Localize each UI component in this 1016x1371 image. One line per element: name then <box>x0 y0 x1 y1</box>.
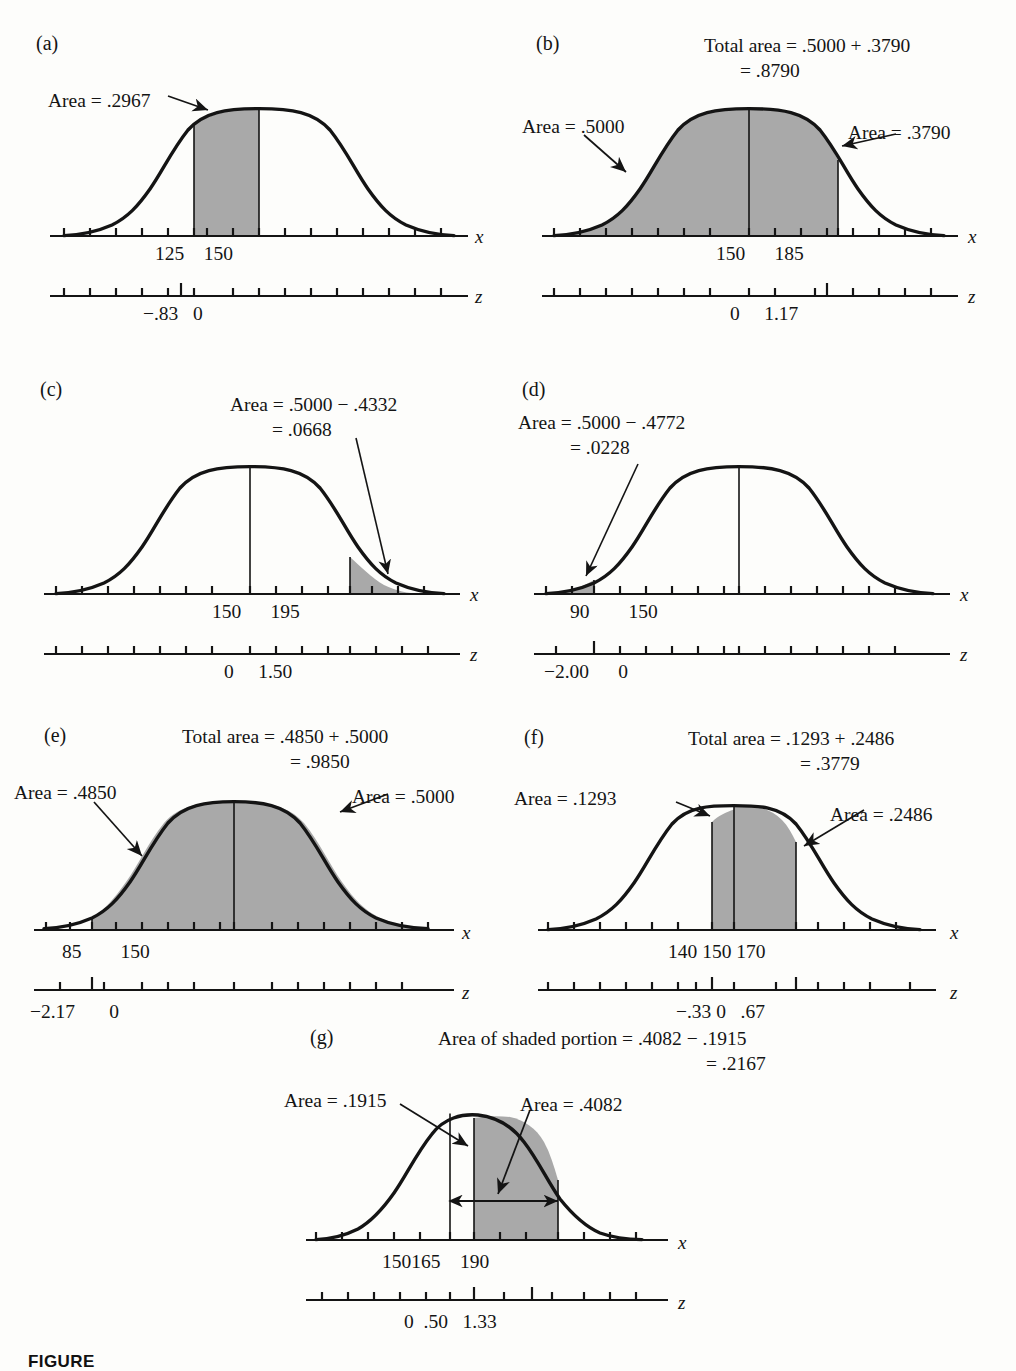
panel-d-annotation-arrow <box>586 464 638 576</box>
panel-a-shaded-region <box>194 109 259 236</box>
panel-g-x-tick-labels: 150165 190 <box>382 1251 489 1273</box>
panel-g-z-ticks <box>322 1287 636 1300</box>
panel-f-x-axis-label: x <box>950 922 958 944</box>
panel-a-z-tick-labels: −.83 0 <box>143 303 203 325</box>
panel-g-z-tick-labels: 0 .50 1.33 <box>404 1311 497 1333</box>
panel-e-annotation-arrow-right <box>340 794 388 812</box>
panel-f-annotation-arrow-right <box>804 810 864 846</box>
panel-g-header-line1: Area of shaded portion = .4082 − .1915 <box>438 1026 746 1052</box>
panel-d-plot <box>516 408 986 698</box>
panel-b-z-tick-labels: 0 1.17 <box>730 303 798 325</box>
panel-f-x-tick-labels: 140 150 170 <box>668 941 766 963</box>
panel-e-z-tick-labels: −2.17 0 <box>30 1001 119 1023</box>
panel-d-z-ticks <box>556 641 895 654</box>
panel-f: (f) Total area = .1293 + .2486 = .3779 A… <box>508 700 1016 1040</box>
panel-c-z-axis-label: z <box>470 644 477 666</box>
panel-d-z-axis-label: z <box>960 644 967 666</box>
panel-b: (b) Total area = .5000 + .3790 = .8790 A… <box>508 0 1016 340</box>
panel-f-z-ticks <box>548 977 910 990</box>
panel-e-x-axis-label: x <box>462 922 470 944</box>
panel-d-label: (d) <box>522 378 545 401</box>
panel-e: (e) Total area = .4850 + .5000 = .9850 A… <box>0 700 508 1040</box>
panel-b-plot <box>520 50 990 340</box>
panel-d-x-ticks <box>546 586 895 594</box>
panel-b-shaded-region <box>554 109 838 236</box>
panel-a-plot <box>20 50 490 340</box>
panel-a-annotation-arrow <box>168 96 208 110</box>
panel-e-z-ticks <box>60 977 402 990</box>
panel-c-x-tick-labels: 150 195 <box>212 601 300 623</box>
panel-d-x-tick-labels: 90 150 <box>570 601 658 623</box>
panel-g-label: (g) <box>310 1026 333 1049</box>
panel-c-x-axis-label: x <box>470 584 478 606</box>
panel-g: (g) Area of shaded portion = .4082 − .19… <box>254 1010 1016 1362</box>
panel-f-shaded-region <box>712 806 796 930</box>
panel-c-z-tick-labels: 0 1.50 <box>224 661 292 683</box>
panel-c-plot <box>20 408 490 698</box>
panel-b-x-tick-labels: 150 185 <box>716 243 804 265</box>
panel-b-annotation-arrow-left <box>584 135 626 172</box>
panel-a-x-axis-label: x <box>475 226 483 248</box>
panel-e-plot <box>20 744 490 1034</box>
panel-f-z-axis-label: z <box>950 982 957 1004</box>
panel-e-annotation-arrow-left <box>94 802 142 856</box>
panel-c-label: (c) <box>40 378 62 401</box>
panel-f-annotation-arrow-left <box>676 802 710 816</box>
panel-b-x-axis-label: x <box>968 226 976 248</box>
panel-d-x-axis-label: x <box>960 584 968 606</box>
panel-b-z-ticks <box>554 283 931 296</box>
panel-e-x-tick-labels: 85 150 <box>62 941 150 963</box>
panel-a: (a) Area = .2967 <box>0 0 508 340</box>
panel-b-annotation-arrow-right <box>842 134 896 146</box>
panel-e-z-axis-label: z <box>462 982 469 1004</box>
panel-g-annotation-arrow-left <box>400 1104 468 1146</box>
panel-g-z-axis-label: z <box>678 1292 685 1314</box>
panel-c-z-ticks <box>56 646 428 654</box>
panel-b-z-axis-label: z <box>968 286 975 308</box>
panel-a-x-tick-labels: 125 150 <box>155 243 233 265</box>
panel-d: (d) Area = .5000 − .4772 = .0228 <box>508 360 1016 700</box>
panel-a-z-axis-label: z <box>475 286 482 308</box>
panel-a-z-ticks <box>64 283 441 296</box>
panel-f-plot <box>520 744 990 1034</box>
panel-d-z-tick-labels: −2.00 0 <box>544 661 628 683</box>
panel-g-plot <box>292 1054 762 1354</box>
panel-c: (c) Area = .5000 − .4332 = .0668 <box>0 360 508 700</box>
figure-caption: FIGURE <box>28 1352 95 1371</box>
panel-g-x-axis-label: x <box>678 1232 686 1254</box>
panel-e-shaded-region <box>92 802 428 930</box>
